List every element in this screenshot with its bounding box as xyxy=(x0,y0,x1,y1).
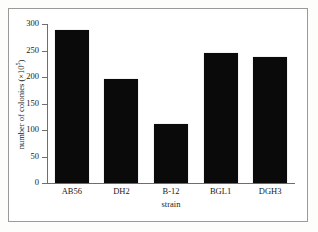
y-axis-label-exponent: 5 xyxy=(16,62,22,65)
x-tick-label: AB56 xyxy=(48,186,97,196)
bar xyxy=(104,79,138,183)
bar-slot xyxy=(97,24,146,183)
y-tick-label: 50 xyxy=(31,151,40,162)
bar xyxy=(253,57,287,183)
bar-slot xyxy=(147,24,196,183)
y-tick: 0 xyxy=(42,183,47,184)
y-axis-label: number of colonies (×105) xyxy=(16,59,27,149)
bar xyxy=(55,30,89,183)
x-tick-label: DH2 xyxy=(97,186,146,196)
x-tick-label: B-12 xyxy=(147,186,196,196)
bar xyxy=(154,124,188,183)
bar-slot xyxy=(246,24,295,183)
y-tick-label: 200 xyxy=(26,71,39,82)
bar-series xyxy=(47,24,295,183)
x-axis-label: strain xyxy=(47,199,295,209)
bar xyxy=(204,53,238,183)
y-tick-label: 300 xyxy=(26,18,39,29)
x-tick-label: DGH3 xyxy=(246,186,295,196)
y-tick-label: 100 xyxy=(26,124,39,135)
x-axis-tick-labels: AB56DH2B-12BGL1DGH3 xyxy=(47,186,295,196)
bar-chart-figure: 050100150200250300 AB56DH2B-12BGL1DGH3 s… xyxy=(0,0,318,232)
x-axis-line xyxy=(47,183,295,184)
y-axis-label-wrapper: number of colonies (×105) xyxy=(14,24,28,184)
y-tick-label: 0 xyxy=(35,177,39,188)
bar-slot xyxy=(196,24,245,183)
x-tick-label: BGL1 xyxy=(196,186,245,196)
y-tick-label: 250 xyxy=(26,45,39,56)
bar-slot xyxy=(48,24,97,183)
y-tick-label: 150 xyxy=(26,98,39,109)
